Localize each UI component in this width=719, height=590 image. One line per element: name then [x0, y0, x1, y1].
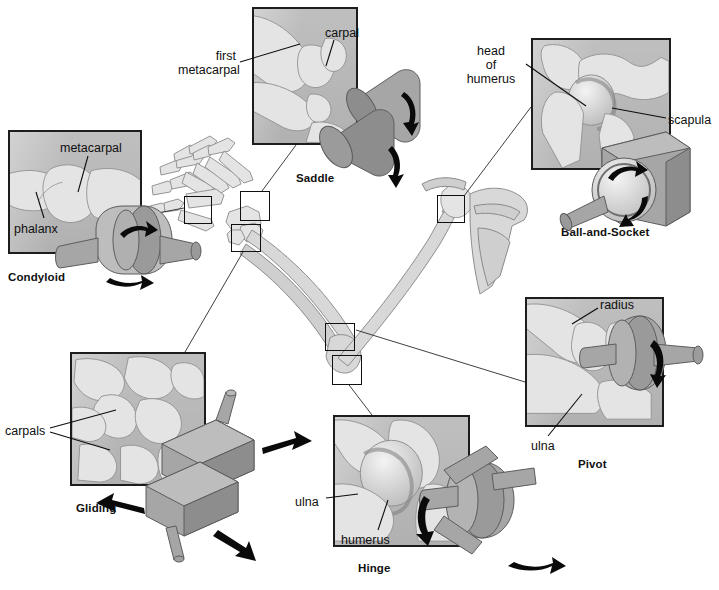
connector-condyloid [142, 208, 184, 216]
connector-hinge [349, 385, 372, 415]
panel-title-gliding: Gliding [76, 502, 116, 514]
panel-pivot [525, 297, 664, 427]
hinge-illustration [335, 417, 468, 545]
highlight-box-ball-socket-site[interactable] [437, 195, 465, 223]
label-first-metacarpal-line1: first [216, 49, 236, 63]
label-head-of-humerus-line3: humerus [467, 72, 516, 86]
panel-title-pivot: Pivot [578, 458, 607, 470]
label-head-of-humerus: head of humerus [456, 44, 526, 86]
panel-ball-and-socket [531, 38, 671, 170]
label-phalanx: phalanx [14, 222, 58, 236]
label-carpal: carpal [325, 26, 359, 40]
panel-title-hinge: Hinge [358, 562, 390, 574]
label-scapula: scapula [668, 113, 711, 127]
pivot-illustration [527, 299, 662, 425]
connector-pivot [356, 330, 525, 382]
panel-hinge [333, 415, 470, 547]
highlight-box-saddle-site[interactable] [240, 191, 270, 221]
highlight-box-pivot-site[interactable] [325, 323, 355, 351]
highlight-box-hinge-site[interactable] [332, 355, 362, 385]
figure-canvas: Saddle first metacarpal carpal Condyloid [0, 0, 719, 590]
gliding-illustration [72, 354, 204, 484]
panel-title-saddle: Saddle [296, 172, 334, 184]
label-head-of-humerus-line1: head [477, 44, 505, 58]
panel-title-ball-and-socket: Ball-and-Socket [561, 226, 649, 238]
label-ulna-pivot: ulna [531, 439, 555, 453]
highlight-box-condyloid-site[interactable] [184, 196, 212, 224]
label-first-metacarpal: first metacarpal [178, 49, 236, 77]
panel-title-condyloid: Condyloid [8, 271, 65, 283]
label-metacarpal: metacarpal [60, 141, 122, 155]
highlight-box-gliding-site[interactable] [231, 224, 261, 252]
ball-and-socket-illustration [533, 40, 669, 168]
label-head-of-humerus-line2: of [486, 58, 496, 72]
panel-gliding [70, 352, 206, 486]
label-ulna-hinge: ulna [295, 495, 319, 509]
connector-saddle [262, 145, 296, 191]
label-first-metacarpal-line2: metacarpal [178, 63, 240, 77]
label-humerus: humerus [341, 533, 390, 547]
label-radius: radius [600, 298, 634, 312]
connector-ball-socket [464, 107, 531, 196]
label-carpals: carpals [5, 424, 45, 438]
connector-gliding [185, 252, 243, 352]
